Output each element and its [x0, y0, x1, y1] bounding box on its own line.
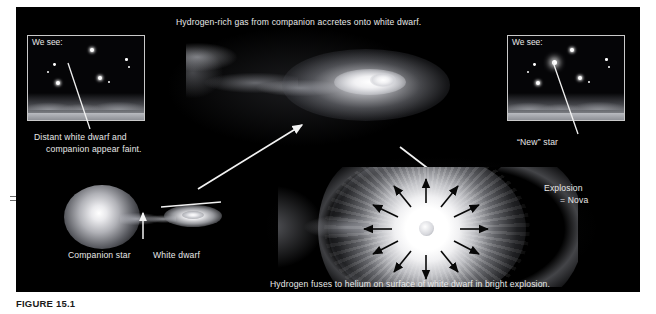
figure-caption: FIGURE 15.1	[16, 298, 75, 309]
white-dwarf-leader-line	[161, 202, 221, 207]
explosion-arrow	[454, 241, 479, 254]
explosion-label-line2: = Nova	[560, 195, 588, 205]
explosion-arrow	[373, 205, 398, 217]
figure-root: Hydrogen-rich gas from companion accrete…	[0, 0, 656, 314]
explosion-arrow	[373, 241, 398, 254]
bottom-caption: Hydrogen fuses to helium on surface of w…	[270, 279, 550, 289]
explosion-arrow	[394, 186, 411, 207]
explosion-arrow	[454, 205, 479, 217]
explosion-group	[278, 167, 578, 287]
illustration-panel: Hydrogen-rich gas from companion accrete…	[16, 7, 640, 292]
explosion-arrow	[441, 251, 458, 272]
explosion-arrow	[441, 186, 458, 207]
explosion-arrow	[394, 251, 411, 272]
illustration-canvas: Hydrogen-rich gas from companion accrete…	[16, 7, 640, 292]
white-dwarf-label: White dwarf	[153, 250, 200, 260]
companion-star-label: Companion star	[68, 250, 131, 260]
explosion-arrows-svg	[278, 167, 578, 287]
explosion-label-line1: Explosion	[544, 183, 583, 193]
